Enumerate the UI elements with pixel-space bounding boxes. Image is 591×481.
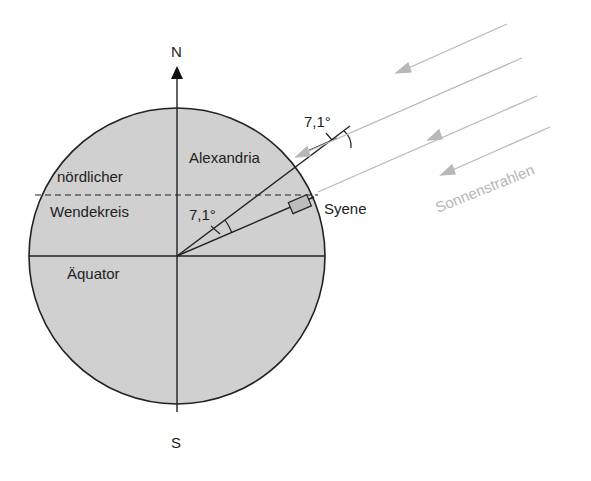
angle-center-label: 7,1° [189, 206, 216, 223]
sun-rays [296, 24, 550, 192]
eratosthenes-diagram: N S nördlicher Wendekreis Äquator Alexan… [0, 0, 591, 481]
equator-label: Äquator [67, 265, 120, 282]
angle-tick-shadow [326, 133, 332, 140]
angle-shadow-label: 7,1° [304, 113, 331, 130]
north-label: N [171, 43, 182, 60]
tropic-label-1: nördlicher [57, 168, 123, 185]
north-arrow-icon [171, 66, 183, 79]
syene-label: Syene [324, 200, 367, 217]
tropic-label-2: Wendekreis [50, 203, 129, 220]
alexandria-label: Alexandria [189, 149, 261, 166]
south-label: S [171, 434, 181, 451]
